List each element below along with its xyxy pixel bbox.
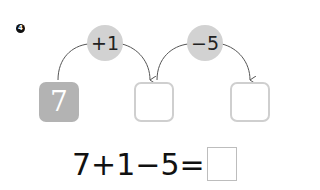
operation-minus-five: −5	[187, 25, 223, 61]
arc-1-left	[58, 44, 88, 80]
arc-2-left	[157, 44, 188, 80]
arc-1-right	[122, 44, 150, 80]
answer-box-2[interactable]	[230, 82, 270, 122]
answer-box-1[interactable]	[134, 82, 174, 122]
start-value-box: 7	[39, 82, 79, 122]
equation-text: 7+1−5=	[72, 147, 205, 182]
operation-plus-one: +1	[87, 25, 123, 61]
equation-answer-box[interactable]	[207, 147, 237, 181]
arc-2-right	[222, 44, 250, 80]
equation: 7+1−5=	[72, 148, 237, 180]
